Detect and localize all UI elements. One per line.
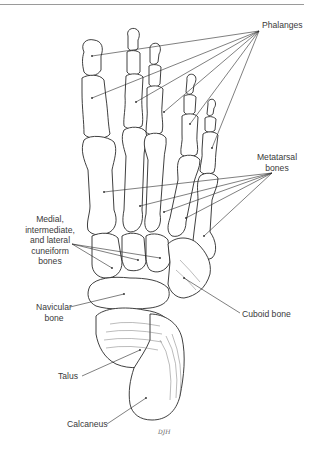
intermediate-cuneiform [122, 233, 146, 271]
label-metatarsal-line2: bones [252, 163, 302, 174]
first-metatarsal [82, 136, 116, 234]
label-cuneiform-line4: cuneiform [18, 246, 82, 257]
fifth-toe-distal-phalanx [207, 99, 216, 115]
navicular [88, 277, 169, 309]
second-metatarsal [122, 127, 146, 232]
label-cuboid-bone: Cuboid bone [242, 309, 291, 320]
third-toe-proximal-phalanx [146, 86, 163, 135]
second-toe-proximal-phalanx [124, 74, 143, 129]
third-toe-middle-phalanx [149, 65, 161, 87]
label-calcaneus: Calcaneus [67, 419, 108, 430]
label-talus: Talus [58, 371, 78, 382]
fourth-toe-distal-phalanx [186, 74, 196, 94]
great-toe-proximal-phalanx [82, 75, 110, 138]
label-cuneiform-line2: intermediate, [18, 225, 82, 236]
label-cuneiform-line1: Medial, [18, 214, 82, 225]
label-metatarsal-bones: Metatarsal bones [252, 152, 302, 173]
label-cuneiform-line3: and lateral [18, 235, 82, 246]
medial-cuneiform [92, 233, 122, 278]
label-metatarsal-line1: Metatarsal [252, 152, 302, 163]
label-cuneiform-line5: bones [18, 256, 82, 267]
label-cuneiform-bones: Medial, intermediate, and lateral cuneif… [18, 214, 82, 267]
label-phalanges: Phalanges [262, 20, 303, 31]
lateral-cuneiform [146, 234, 170, 272]
third-metatarsal [144, 133, 166, 232]
second-toe-middle-phalanx [127, 51, 140, 75]
fourth-toe-middle-phalanx [184, 95, 196, 115]
second-toe-distal-phalanx [128, 28, 140, 51]
label-navicular-line1: Navicular [34, 302, 74, 313]
fifth-toe-middle-phalanx [205, 117, 216, 133]
fourth-toe-proximal-phalanx [181, 114, 198, 157]
label-navicular-bone: Navicular bone [34, 302, 74, 323]
great-toe-distal-phalanx [83, 40, 103, 76]
artist-signature: DJH [158, 428, 170, 435]
label-navicular-line2: bone [34, 313, 74, 324]
fifth-toe-proximal-phalanx [200, 132, 218, 174]
